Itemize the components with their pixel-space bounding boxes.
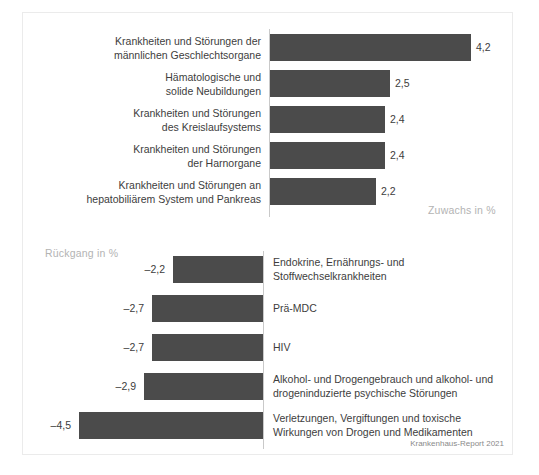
chart-frame: Krankheiten und Störungen der männlichen… — [22, 12, 513, 455]
growth-bar[interactable] — [270, 178, 376, 205]
decline-category-label: Endokrine, Ernährungs- und Stoffwechselk… — [273, 256, 509, 283]
growth-category-label: Hämatologische und solide Neubildungen — [33, 71, 261, 98]
decline-category-label: Alkohol- und Drogengebrauch und alkohol-… — [273, 373, 513, 400]
growth-category-label: Krankheiten und Störungen der männlichen… — [33, 35, 261, 62]
decline-bar[interactable] — [152, 334, 263, 361]
decline-bar[interactable] — [152, 295, 263, 322]
decline-axis-caption: Rückgang in % — [45, 247, 118, 259]
growth-value-label: 2,4 — [390, 113, 426, 126]
decline-value-label: –2,7 — [102, 302, 144, 315]
growth-bar[interactable] — [270, 70, 390, 97]
decline-category-label: Verletzungen, Vergiftungen und toxische … — [273, 412, 513, 439]
growth-axis-caption: Zuwachs in % — [428, 204, 496, 216]
decline-axis-line — [263, 251, 264, 449]
growth-category-label: Krankheiten und Störungen des Kreislaufs… — [33, 107, 261, 134]
decline-bar[interactable] — [79, 412, 263, 439]
decline-value-label: –2,7 — [102, 341, 144, 354]
growth-value-label: 2,4 — [390, 149, 426, 162]
growth-value-label: 2,2 — [381, 185, 417, 198]
growth-category-label: Krankheiten und Störungen der Harnorgane — [33, 143, 261, 170]
growth-value-label: 2,5 — [395, 77, 431, 90]
decline-bar[interactable] — [144, 373, 263, 400]
decline-value-label: –4,5 — [29, 419, 71, 432]
growth-category-label: Krankheiten und Störungen an hepatobiliä… — [23, 179, 261, 206]
growth-bar[interactable] — [270, 34, 471, 61]
decline-value-label: –2,9 — [94, 380, 136, 393]
decline-value-label: –2,2 — [123, 263, 165, 276]
decline-category-label: HIV — [273, 341, 509, 355]
growth-bar[interactable] — [270, 106, 385, 133]
decline-bar[interactable] — [173, 256, 263, 283]
decline-category-label: Prä-MDC — [273, 302, 509, 316]
growth-value-label: 4,2 — [476, 41, 512, 54]
source-note: Krankenhaus-Report 2021 — [304, 439, 504, 448]
growth-bar[interactable] — [270, 142, 385, 169]
